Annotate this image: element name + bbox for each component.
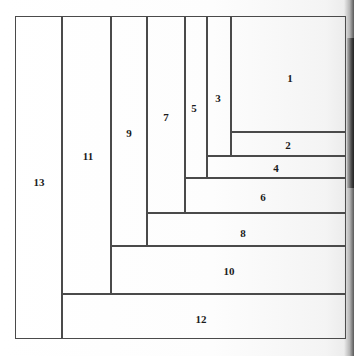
rectangle-5: [185, 16, 208, 178]
rectangle-label-7: 7: [163, 112, 169, 123]
rectangle-label-12: 12: [196, 314, 207, 325]
rectangle-label-11: 11: [83, 151, 93, 162]
rectangle-label-4: 4: [273, 163, 279, 174]
rectangle-label-2: 2: [285, 140, 291, 151]
rectangle-label-1: 1: [287, 73, 293, 84]
page-edge-shadow-block: [347, 38, 354, 188]
rectangle-label-10: 10: [224, 266, 235, 277]
rectangle-dissection-figure: 12345678910111213: [0, 0, 354, 356]
rectangle-label-3: 3: [215, 93, 221, 104]
rectangle-8: [147, 213, 346, 246]
rectangle-label-6: 6: [260, 192, 266, 203]
rectangle-label-13: 13: [34, 177, 45, 188]
rectangle-label-5: 5: [191, 103, 197, 114]
rectangle-3: [207, 16, 231, 157]
rectangle-label-9: 9: [126, 128, 132, 139]
rectangle-label-8: 8: [240, 228, 246, 239]
